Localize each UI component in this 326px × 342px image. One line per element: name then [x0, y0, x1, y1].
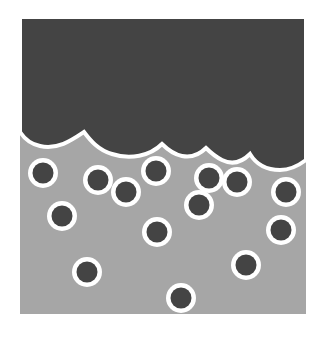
- particle: [83, 165, 113, 195]
- particle-core: [271, 220, 292, 241]
- particle: [141, 156, 171, 186]
- particle: [47, 201, 77, 231]
- particle: [231, 250, 261, 280]
- particle-core: [146, 161, 167, 182]
- particle: [166, 283, 196, 313]
- particle: [142, 217, 172, 247]
- particle-core: [171, 288, 192, 309]
- particle-core: [189, 195, 210, 216]
- particle: [184, 190, 214, 220]
- particle: [222, 167, 252, 197]
- particle: [266, 215, 296, 245]
- particle-core: [33, 163, 54, 184]
- particle-core: [276, 182, 297, 203]
- particle: [111, 177, 141, 207]
- particle-core: [116, 182, 137, 203]
- particle-core: [88, 170, 109, 191]
- particle: [28, 158, 58, 188]
- phase-diagram: [0, 0, 326, 342]
- particle-core: [147, 222, 168, 243]
- particle: [72, 257, 102, 287]
- particle: [271, 177, 301, 207]
- particle-core: [227, 172, 248, 193]
- particle-core: [199, 168, 220, 189]
- particle-core: [236, 255, 257, 276]
- particle-core: [52, 206, 73, 227]
- particle: [194, 163, 224, 193]
- particle-core: [77, 262, 98, 283]
